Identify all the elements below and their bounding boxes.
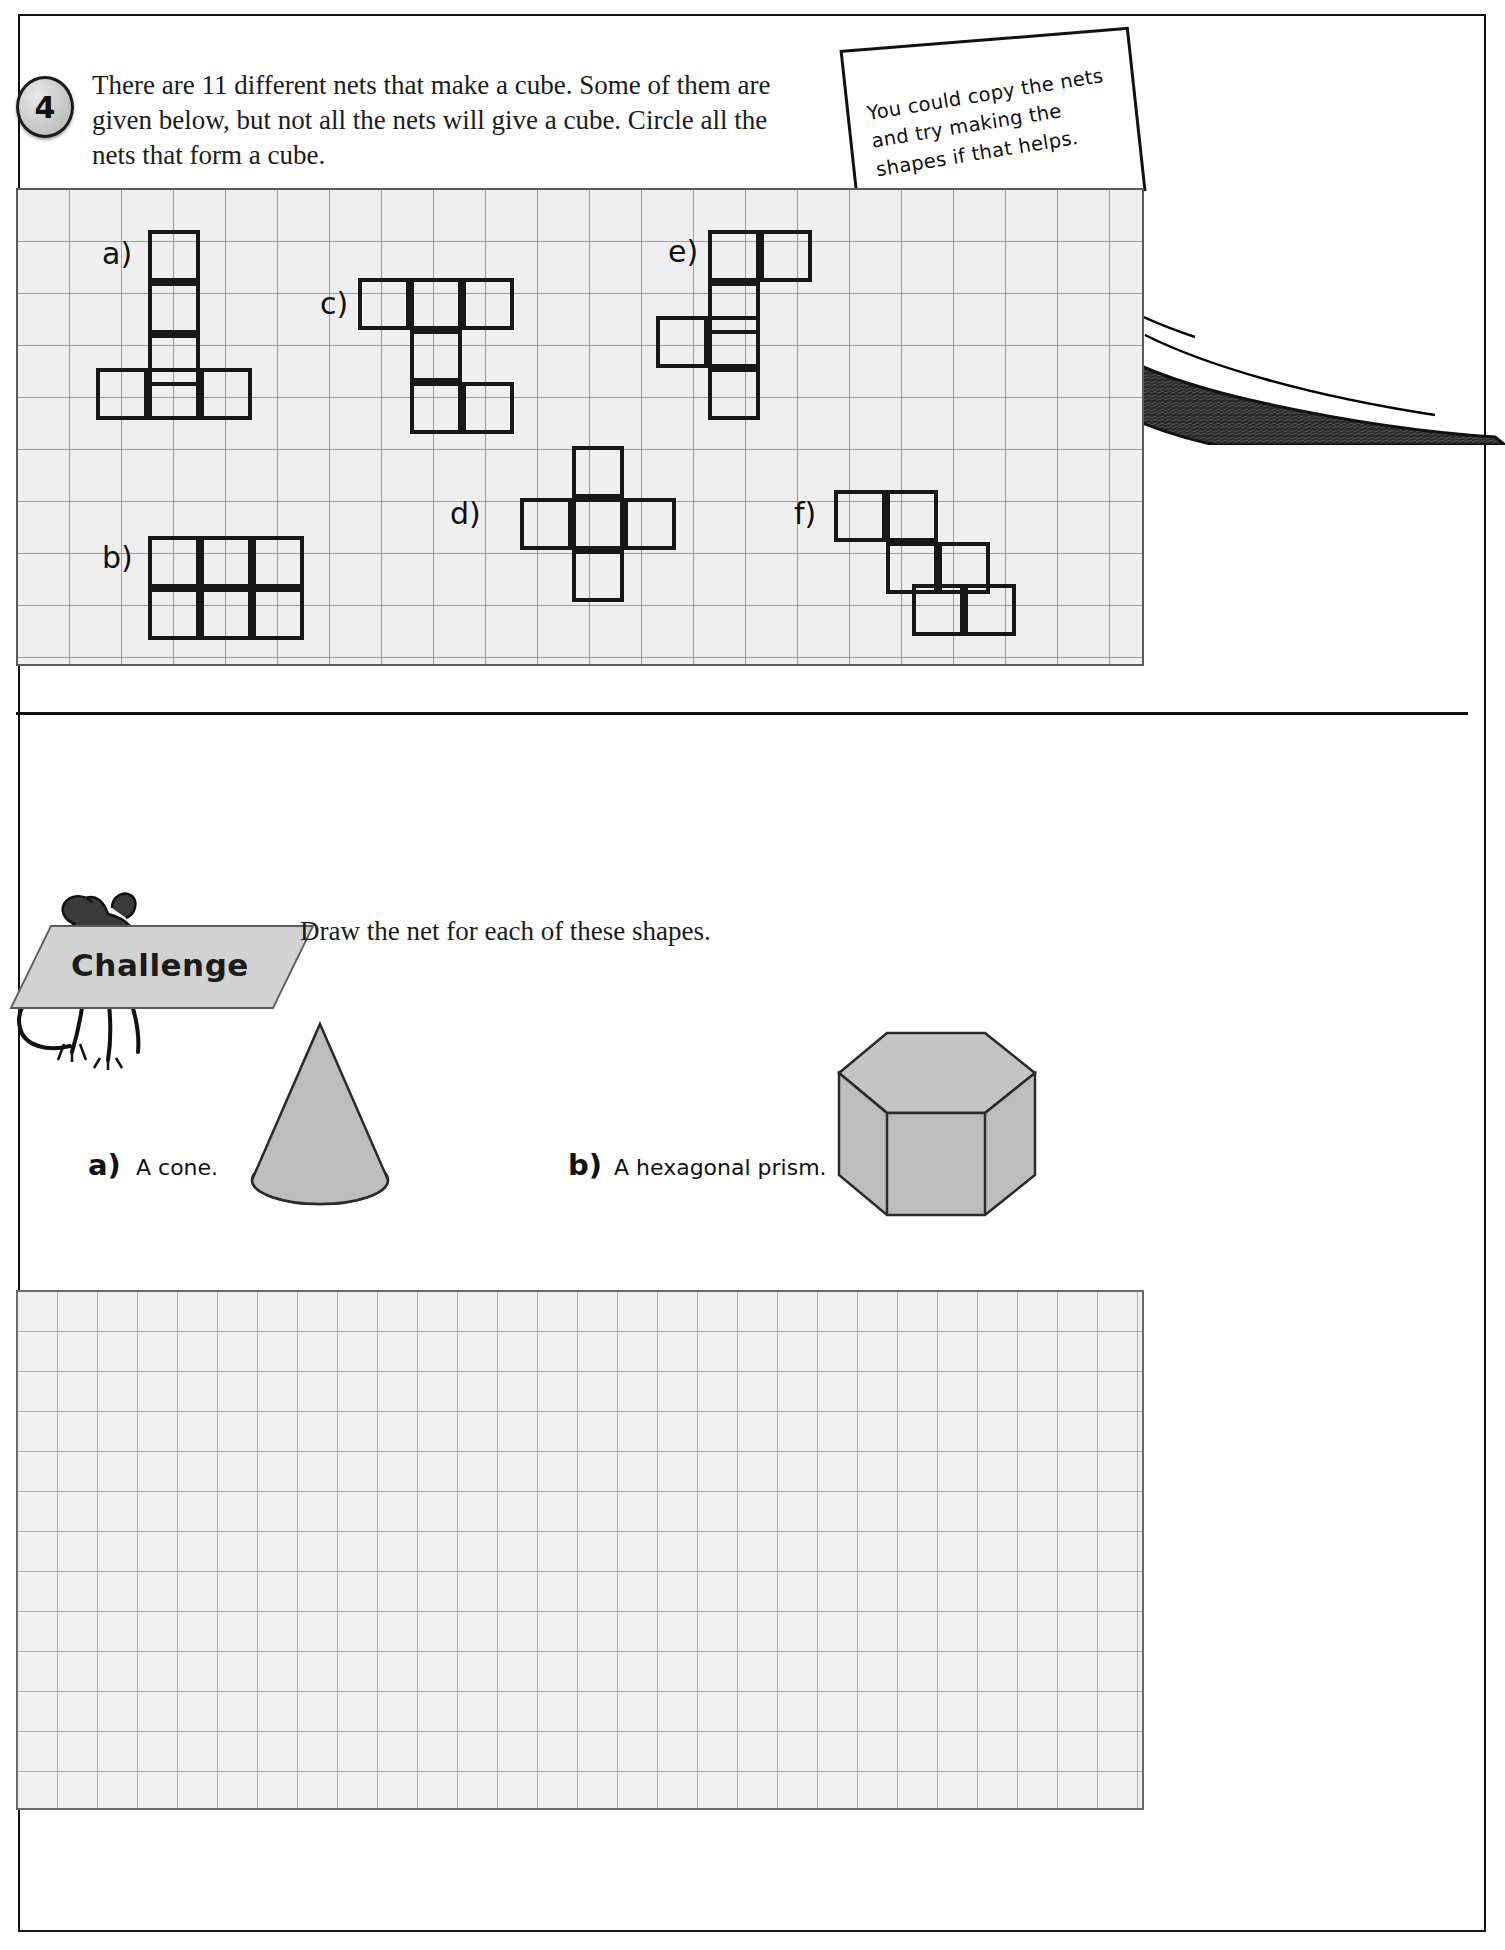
challenge-item-a-text: A cone. (136, 1155, 218, 1180)
net-a-cell (200, 368, 252, 420)
net-b-cell (200, 588, 252, 640)
net-f-cell (912, 584, 964, 636)
net-c-cell (358, 278, 410, 330)
cone-shape-illustration (245, 1020, 395, 1210)
challenge-item-b-label: b) (568, 1148, 602, 1182)
challenge-item-a-label: a) (88, 1148, 121, 1182)
net-e-cell (708, 368, 760, 420)
net-d-cell (572, 446, 624, 498)
hexagonal-prism-shape-illustration (835, 1025, 1040, 1220)
net-label-d: d) (450, 496, 481, 531)
answer-grid-area[interactable] (16, 1290, 1144, 1810)
challenge-badge: Challenge (30, 925, 290, 1005)
net-b-cell (148, 536, 200, 588)
net-e-cell (656, 316, 708, 368)
net-b-cell (148, 588, 200, 640)
question-number-badge: 4 (16, 76, 74, 138)
net-label-e: e) (668, 234, 698, 269)
net-c-cell (462, 382, 514, 434)
net-a-cell (148, 368, 200, 420)
challenge-badge-label: Challenge (30, 925, 290, 1005)
net-label-f: f) (794, 496, 816, 531)
net-a-cell (148, 230, 200, 282)
net-d-cell (520, 498, 572, 550)
net-label-c: c) (320, 286, 348, 321)
net-d-cell (572, 550, 624, 602)
net-b-cell (252, 536, 304, 588)
question-text: There are 11 different nets that make a … (92, 68, 802, 173)
net-e-cell (708, 230, 760, 282)
net-a-cell (96, 368, 148, 420)
nets-drawing-layer: a) b) c) d) e) f) (16, 188, 1144, 666)
net-f-cell (886, 490, 938, 542)
net-b-cell (200, 536, 252, 588)
net-f-cell (834, 490, 886, 542)
net-c-cell (462, 278, 514, 330)
net-c-cell (410, 278, 462, 330)
net-label-a: a) (102, 236, 132, 271)
net-e-cell (760, 230, 812, 282)
challenge-instruction: Draw the net for each of these shapes. (300, 916, 711, 947)
net-label-b: b) (102, 540, 133, 575)
challenge-item-b-text: A hexagonal prism. (614, 1155, 827, 1180)
net-c-cell (410, 330, 462, 382)
section-divider (16, 712, 1468, 715)
net-b-cell (252, 588, 304, 640)
net-c-cell (410, 382, 462, 434)
net-f-cell (964, 584, 1016, 636)
net-d-cell (624, 498, 676, 550)
net-d-cell (572, 498, 624, 550)
net-e-cell (708, 316, 760, 368)
net-a-cell (148, 282, 200, 334)
